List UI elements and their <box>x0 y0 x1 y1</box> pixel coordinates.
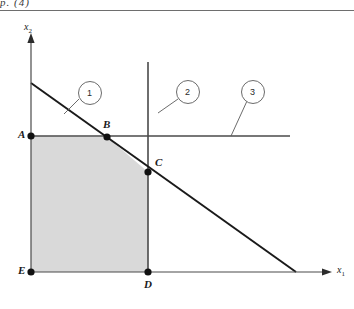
vertex-dot-C <box>144 168 151 175</box>
vertex-label-B: B <box>103 119 110 130</box>
y-axis-label: x2 <box>24 22 32 35</box>
figure-canvas: p. (4) A B C D E 1 <box>0 0 354 309</box>
constraint-callout-label-2: 2 <box>185 88 190 97</box>
vertex-dot-D <box>144 268 151 275</box>
vertex-dot-B <box>103 133 110 140</box>
vertex-dot-A <box>27 132 34 139</box>
vertex-label-E: E <box>18 265 25 276</box>
x-axis-arrowhead <box>322 268 332 275</box>
vertex-label-A: A <box>18 129 25 140</box>
linear-programming-plot <box>0 0 354 309</box>
constraint-callout-label-3: 3 <box>250 88 255 97</box>
vertex-dot-E <box>27 268 34 275</box>
x-axis-label-sub: 1 <box>341 270 345 278</box>
y-axis-label-sub: 2 <box>28 27 32 35</box>
vertex-label-D: D <box>144 279 152 290</box>
vertex-label-C: C <box>155 157 162 168</box>
leader-line-3 <box>231 101 247 136</box>
x-axis-label: x1 <box>337 265 345 278</box>
leader-line-2 <box>158 99 178 113</box>
feasible-region-shaded <box>31 136 148 272</box>
constraint-callout-label-1: 1 <box>87 89 92 98</box>
